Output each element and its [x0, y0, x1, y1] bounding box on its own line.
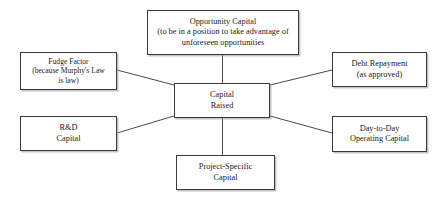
connector-center-to-daytoday: [270, 116, 332, 133]
connector-fudge-to-center: [117, 70, 174, 85]
node-day-to-day-operating-capital-label: Day-to-Day Operating Capital: [333, 124, 426, 144]
connector-rd-to-center: [117, 116, 174, 133]
node-rd-capital-label: R&D Capital: [21, 123, 116, 143]
node-opportunity-capital-label: Opportunity Capital (to be in a position…: [148, 17, 298, 47]
node-debt-repayment-label: Debt Repayment (as approved): [333, 59, 426, 79]
node-day-to-day-operating-capital[interactable]: Day-to-Day Operating Capital: [332, 116, 427, 152]
node-debt-repayment[interactable]: Debt Repayment (as approved): [332, 52, 427, 87]
node-fudge-factor[interactable]: Fudge Factor (because Murphy's Law is la…: [20, 52, 117, 90]
connector-center-to-debt: [270, 70, 332, 85]
diagram-canvas: Opportunity Capital (to be in a position…: [0, 0, 445, 197]
node-fudge-factor-label: Fudge Factor (because Murphy's Law is la…: [21, 57, 116, 85]
node-capital-raised[interactable]: Capital Raised: [174, 83, 270, 118]
node-project-specific-capital[interactable]: Project-Specific Capital: [176, 155, 275, 190]
node-rd-capital[interactable]: R&D Capital: [20, 116, 117, 151]
node-project-specific-capital-label: Project-Specific Capital: [177, 162, 274, 182]
node-opportunity-capital[interactable]: Opportunity Capital (to be in a position…: [147, 10, 299, 55]
node-capital-raised-label: Capital Raised: [175, 90, 269, 110]
